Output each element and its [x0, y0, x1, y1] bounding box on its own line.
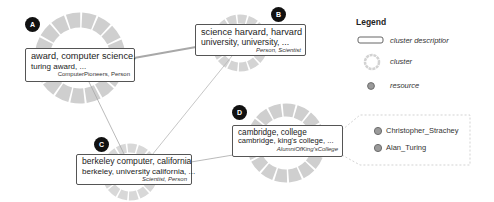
cluster-badge-d: D	[232, 105, 247, 120]
cluster-d-types: AlumniOfKing'sCollege	[238, 146, 338, 153]
cluster-a-types: ComputerPioneers, Person	[31, 71, 130, 78]
resource-label-christopher-strachey[interactable]: Christopher_Strachey	[386, 126, 459, 135]
resource-callout-d	[342, 115, 470, 165]
legend-label-cluster-descriptor: cluster descriptior	[390, 36, 449, 45]
cluster-c-terms-line2: berkeley, university california, ...	[82, 167, 187, 176]
cluster-b-types: Person, Scientist	[201, 47, 301, 54]
cluster-badge-c: C	[94, 137, 109, 152]
cluster-c-terms-line1: berkeley computer, california	[82, 157, 187, 167]
resource-dot-alan-turing[interactable]	[374, 144, 381, 151]
cluster-descriptor-d[interactable]: cambridge, college cambridge, king's col…	[232, 125, 343, 157]
edge-c-d	[191, 155, 233, 162]
cluster-descriptor-c[interactable]: berkeley computer, california berkeley, …	[76, 154, 192, 185]
cluster-badge-b: B	[271, 7, 286, 22]
dashed-ring-icon	[365, 55, 379, 69]
legend-label-cluster: cluster	[390, 57, 412, 66]
cluster-b-terms-line1: science harvard, harvard	[201, 27, 301, 38]
resource-label-alan-turing[interactable]: Alan_Turing	[386, 143, 426, 152]
cluster-descriptor-a[interactable]: award, computer science, turing award, .…	[25, 48, 135, 82]
legend-label-resource: resource	[390, 81, 419, 90]
dot-icon	[368, 83, 375, 90]
cluster-b-terms-line2: university, university, ...	[201, 38, 301, 48]
cluster-badge-a: A	[25, 17, 40, 32]
cluster-c-types: Scientist, Person	[82, 176, 187, 183]
resource-dot-christopher-strachey[interactable]	[374, 127, 381, 134]
edge-a-b	[134, 47, 196, 58]
edge-b-c	[152, 56, 232, 155]
legend-title: Legend	[356, 17, 386, 27]
cluster-a-terms-line2: turing award, ...	[31, 62, 130, 71]
cluster-a-terms-line1: award, computer science,	[31, 51, 130, 62]
cluster-d-terms-line2: cambridge, king's college, ...	[238, 137, 338, 146]
cluster-descriptor-b[interactable]: science harvard, harvard university, uni…	[195, 24, 306, 56]
rounded-rect-icon	[358, 37, 383, 43]
